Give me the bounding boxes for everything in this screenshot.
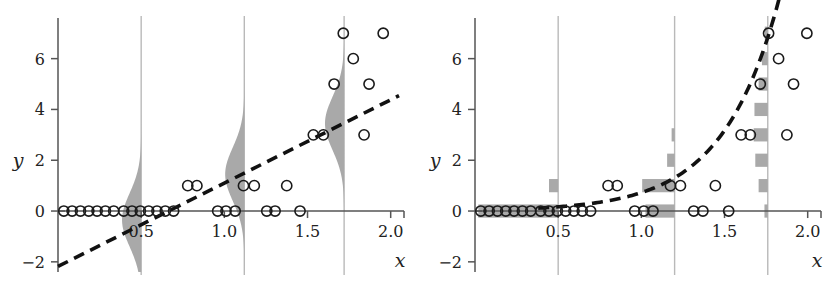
y-axis-label: y <box>12 149 24 171</box>
y-tick-label-2: 2 <box>452 151 462 170</box>
y-tick-label-0: −2 <box>21 253 45 272</box>
y-tick-label-3: 4 <box>35 100 45 119</box>
x-tick-label-3: 2.0 <box>795 222 820 241</box>
x-axis-label: x <box>812 249 823 271</box>
left-panel-canvas: 0.51.01.52.0−20246xy <box>0 0 416 285</box>
data-point <box>282 181 292 191</box>
pmf-bar-2-2 <box>755 154 767 167</box>
data-point <box>802 28 812 38</box>
y-tick-label-0: −2 <box>438 253 462 272</box>
y-tick-label-4: 6 <box>452 50 462 69</box>
x-tick-label-2: 1.5 <box>712 222 737 241</box>
data-point <box>710 181 720 191</box>
left-panel-axes: 0.51.01.52.0−20246xy <box>12 18 406 272</box>
y-tick-label-1: 0 <box>35 202 45 221</box>
y-tick-label-1: 0 <box>452 202 462 221</box>
density-curve-0 <box>122 104 141 272</box>
pmf-bar-1-3 <box>672 128 675 141</box>
x-tick-label-1: 1.0 <box>629 222 654 241</box>
right-panel-canvas: 0.51.01.52.0−20246xy <box>417 0 833 285</box>
figure-panel-pair: 0.51.01.52.0−20246xy 0.51.01.52.0−20246x… <box>0 0 833 285</box>
fit-curve <box>538 0 812 208</box>
panel-linear-regression: 0.51.01.52.0−20246xy <box>0 0 416 285</box>
data-point <box>788 79 798 89</box>
y-axis-label: y <box>429 149 441 171</box>
data-point <box>364 79 374 89</box>
x-tick-label-3: 2.0 <box>378 222 403 241</box>
x-tick-label-0: 0.5 <box>545 222 570 241</box>
right-panel-pmf-bars <box>478 27 767 218</box>
y-tick-label-4: 6 <box>35 50 45 69</box>
pmf-bar-2-4 <box>754 103 767 116</box>
x-axis-label: x <box>395 249 406 271</box>
pmf-bar-1-2 <box>667 154 674 167</box>
pmf-bar-2-1 <box>759 179 768 192</box>
y-tick-label-3: 4 <box>452 100 462 119</box>
panel-poisson-regression: 0.51.01.52.0−20246xy <box>417 0 833 285</box>
y-tick-label-2: 2 <box>35 151 45 170</box>
data-point <box>359 130 369 140</box>
data-point <box>378 28 388 38</box>
data-point <box>348 54 358 64</box>
data-point <box>782 130 792 140</box>
data-point <box>338 28 348 38</box>
x-tick-label-2: 1.5 <box>295 222 320 241</box>
data-point <box>249 181 259 191</box>
data-point <box>773 54 783 64</box>
x-tick-label-1: 1.0 <box>212 222 237 241</box>
pmf-bar-0-1 <box>549 179 558 192</box>
data-point <box>675 181 685 191</box>
